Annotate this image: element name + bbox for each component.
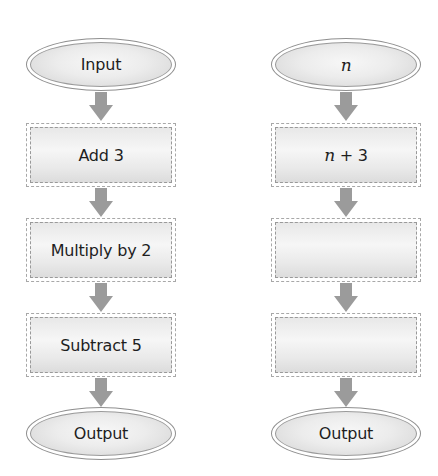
variable-n: n [341,55,352,75]
right-flowchart: n n + 3 Output [271,0,421,476]
input-terminal: Input [26,38,176,91]
expression-rest: + 3 [335,146,368,165]
step-label: Multiply by 2 [51,241,152,260]
down-arrow-icon [89,283,113,312]
step-expression: n + 3 [324,145,368,165]
down-arrow-icon [334,92,358,121]
down-arrow-icon [334,378,358,407]
input-variable-label: n [341,55,352,75]
output-label: Output [319,424,373,443]
step-n-plus-3: n + 3 [271,123,421,187]
output-terminal: Output [26,407,176,460]
left-flowchart: Input Add 3 Multiply by 2 Subtract 5 Out… [26,0,176,476]
input-terminal-n: n [271,38,421,91]
variable-n: n [324,145,335,165]
down-arrow-icon [89,92,113,121]
step-blank-1 [271,218,421,282]
output-terminal: Output [271,407,421,460]
down-arrow-icon [334,188,358,217]
step-add-3: Add 3 [26,123,176,187]
step-subtract-5: Subtract 5 [26,313,176,377]
output-label: Output [74,424,128,443]
down-arrow-icon [89,188,113,217]
down-arrow-icon [334,283,358,312]
input-label: Input [81,55,121,74]
step-blank-2 [271,313,421,377]
down-arrow-icon [89,378,113,407]
step-label: Subtract 5 [60,336,141,355]
step-multiply-by-2: Multiply by 2 [26,218,176,282]
step-label: Add 3 [78,146,123,165]
